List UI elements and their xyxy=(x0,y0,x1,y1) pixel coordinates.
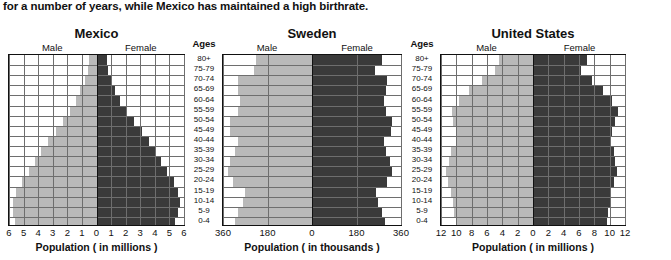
bar-row xyxy=(441,176,533,186)
bar-row xyxy=(533,75,625,85)
bar-row xyxy=(312,217,401,225)
x-tick-label: 360 xyxy=(393,226,409,239)
panel-title-mexico: Mexico xyxy=(8,26,185,41)
bar-row xyxy=(441,136,533,146)
bar-row xyxy=(533,126,625,136)
x-tick-label: 1 xyxy=(108,226,113,239)
male-bar xyxy=(63,116,97,126)
male-bar xyxy=(238,136,312,146)
bar-row xyxy=(312,136,401,146)
bar-row xyxy=(223,136,312,146)
male-bar xyxy=(453,116,533,126)
bar-row xyxy=(223,116,312,126)
male-bar xyxy=(230,156,312,166)
bar-row xyxy=(97,156,185,166)
male-label-united-states: Male xyxy=(440,41,533,54)
ages-list-2: 80+75-7970-7465-6960-6455-5950-5445-4940… xyxy=(404,54,440,226)
bar-row xyxy=(97,106,185,116)
male-bar xyxy=(454,207,533,217)
age-group-label: 55-59 xyxy=(404,106,440,114)
panel-title-sweden: Sweden xyxy=(222,26,402,41)
bar-row xyxy=(97,85,185,95)
male-bar xyxy=(453,197,534,207)
bar-row xyxy=(533,65,625,75)
male-bar xyxy=(469,85,533,95)
bar-row xyxy=(441,207,533,217)
bar-row xyxy=(9,116,97,126)
bar-row xyxy=(533,146,625,156)
ages-column-1: Ages 80+75-7970-7465-6960-6455-5950-5445… xyxy=(186,26,222,226)
bar-row xyxy=(9,55,97,65)
male-bar xyxy=(15,217,97,225)
x-tick-label: 12 xyxy=(620,226,631,239)
male-bar xyxy=(238,106,312,116)
female-bar xyxy=(312,126,391,136)
female-bar xyxy=(533,197,610,207)
bar-row xyxy=(223,126,312,136)
bar-row xyxy=(533,55,625,65)
male-bar xyxy=(88,65,97,75)
x-tick-label: 4 xyxy=(36,226,41,239)
bar-row xyxy=(441,116,533,126)
panel-united-states: United States Male Female 12108642024681… xyxy=(440,26,626,254)
bar-row xyxy=(223,146,312,156)
bar-row xyxy=(9,65,97,75)
female-bar xyxy=(312,55,382,65)
male-bar xyxy=(89,55,96,65)
age-group-label: 65-69 xyxy=(404,85,440,93)
bar-row xyxy=(9,136,97,146)
gridline-vertical xyxy=(625,55,626,225)
bar-row xyxy=(9,176,97,186)
panel-title-united-states: United States xyxy=(440,26,626,41)
female-bar xyxy=(312,146,386,156)
female-bar xyxy=(533,187,611,197)
bar-row xyxy=(9,207,97,217)
age-group-label: 30-34 xyxy=(404,156,440,164)
bar-row xyxy=(312,95,401,105)
bar-row xyxy=(97,207,185,217)
male-bar xyxy=(456,126,533,136)
x-tick-label: 180 xyxy=(260,226,276,239)
x-tick-label: 8 xyxy=(469,226,474,239)
intro-paragraph: for a number of years, while Mexico has … xyxy=(3,0,368,12)
bar-row xyxy=(9,197,97,207)
male-bar xyxy=(451,146,533,156)
female-bar xyxy=(312,136,384,146)
x-axis-sweden: 3601800180360 xyxy=(222,226,402,239)
bar-row xyxy=(97,65,185,75)
age-group-label: 5-9 xyxy=(186,207,222,215)
x-tick-label: 2 xyxy=(65,226,70,239)
age-group-label: 20-24 xyxy=(404,176,440,184)
bar-row xyxy=(9,187,97,197)
bar-row xyxy=(223,166,312,176)
age-group-label: 50-54 xyxy=(404,116,440,124)
bar-row xyxy=(441,75,533,85)
female-bar xyxy=(533,207,608,217)
bar-row xyxy=(312,156,401,166)
bar-row xyxy=(441,217,533,225)
x-tick-label: 0 xyxy=(530,226,535,239)
age-group-label: 35-39 xyxy=(186,146,222,154)
male-bar xyxy=(235,217,312,225)
age-group-label: 75-79 xyxy=(404,65,440,73)
bar-row xyxy=(312,126,401,136)
male-bar xyxy=(233,176,312,186)
age-group-label: 40-44 xyxy=(186,136,222,144)
bar-row xyxy=(97,217,185,225)
sex-label-row-united-states: Male Female xyxy=(440,41,626,54)
bar-row xyxy=(533,136,625,146)
bar-row xyxy=(533,106,625,116)
age-group-label: 25-29 xyxy=(404,166,440,174)
bar-row xyxy=(97,197,185,207)
bar-row xyxy=(533,166,625,176)
x-tick-label: 5 xyxy=(167,226,172,239)
male-bar xyxy=(459,95,533,105)
male-bar xyxy=(13,197,96,207)
female-bar xyxy=(533,75,592,85)
male-bar xyxy=(448,176,533,186)
bar-row xyxy=(533,116,625,126)
male-label-sweden: Male xyxy=(222,41,312,54)
bar-row xyxy=(441,197,533,207)
bar-row xyxy=(312,187,401,197)
female-bar xyxy=(312,217,385,225)
